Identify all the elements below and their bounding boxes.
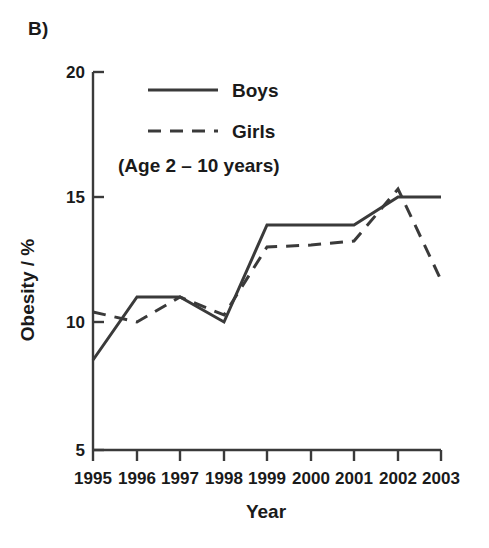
x-tick-label-2002: 2002: [379, 469, 417, 488]
x-tick-label-1996: 1996: [118, 469, 156, 488]
figure-panel-b: B) 20 15 10 5 1995: [0, 0, 489, 548]
x-tick-label-1997: 1997: [161, 469, 199, 488]
x-axis-title: Year: [246, 501, 287, 522]
x-tick-label-1998: 1998: [205, 469, 243, 488]
y-axis-title: Obesity / %: [17, 239, 38, 342]
legend-label-boys: Boys: [232, 80, 278, 101]
y-tick-label-10: 10: [66, 313, 85, 332]
chart-legend: Boys Girls (Age 2 – 10 years): [118, 80, 280, 176]
x-tick-label-1995: 1995: [74, 469, 112, 488]
x-tick-label-2001: 2001: [335, 469, 373, 488]
x-tick-label-2003: 2003: [422, 469, 460, 488]
y-tick-label-20: 20: [66, 63, 85, 82]
series-line-boys: [93, 197, 441, 360]
y-axis-ticks: [93, 72, 104, 450]
y-tick-label-5: 5: [76, 441, 85, 460]
x-tick-label-2000: 2000: [292, 469, 330, 488]
x-axis-ticks: [93, 450, 441, 461]
legend-label-girls: Girls: [232, 121, 275, 142]
obesity-line-chart: 20 15 10 5 1995 1996 1997 1998 1999 2000…: [0, 0, 489, 548]
x-tick-label-1999: 1999: [248, 469, 286, 488]
y-tick-label-15: 15: [66, 188, 85, 207]
legend-age-note: (Age 2 – 10 years): [118, 155, 280, 176]
series-line-girls: [93, 189, 441, 322]
